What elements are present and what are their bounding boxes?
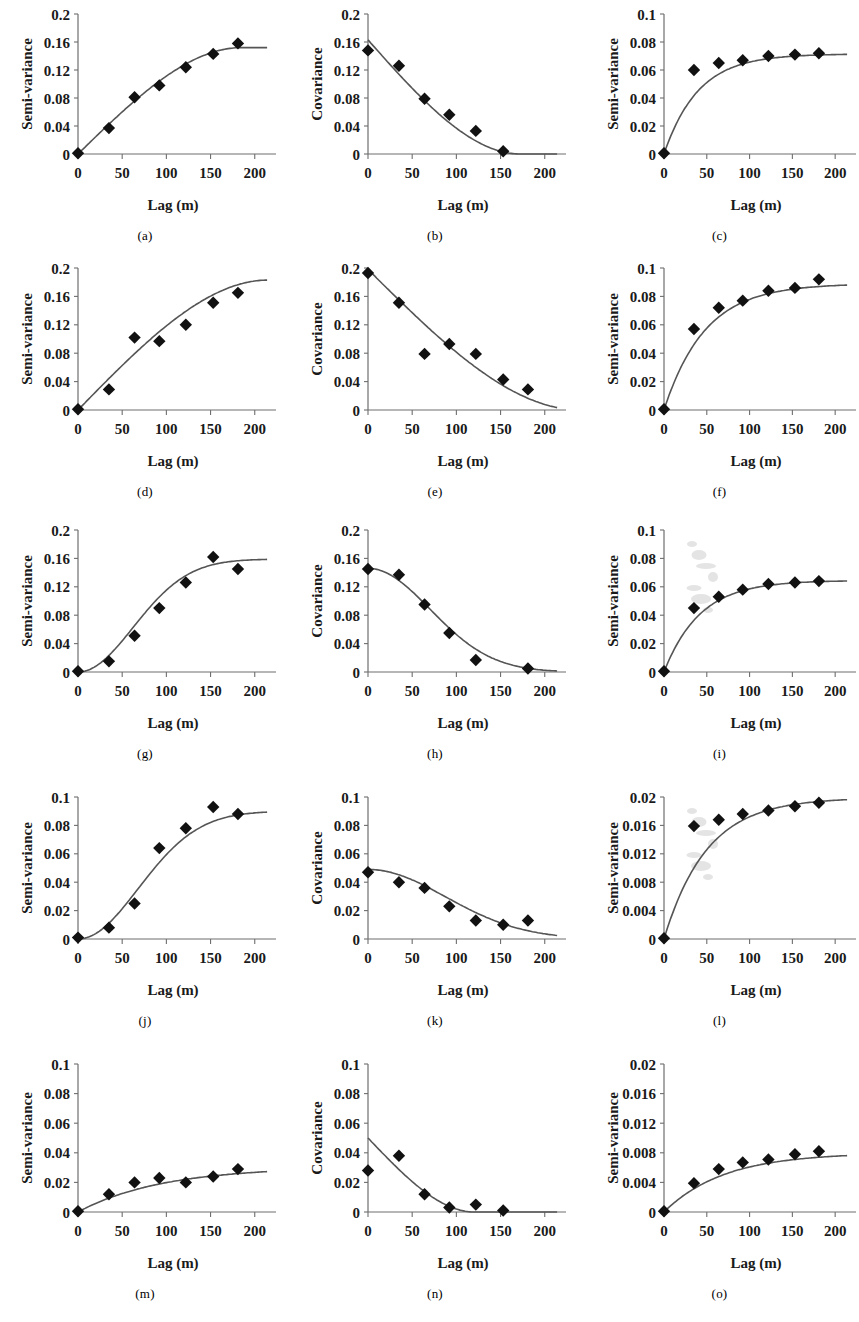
y-tick-label: 0.04 xyxy=(44,636,71,652)
plot-svg-h: 00.040.080.120.160.2050100150200Covarian… xyxy=(290,510,580,775)
y-tick-label: 0.06 xyxy=(334,846,361,862)
panel-caption-j: (j) xyxy=(0,1013,290,1029)
x-tick-label: 0 xyxy=(74,165,82,181)
plot-svg-d: 00.040.080.120.160.2050100150200Semi-var… xyxy=(0,250,290,510)
x-tick-label: 50 xyxy=(699,165,714,181)
x-tick-label: 200 xyxy=(824,165,847,181)
data-point-marker xyxy=(813,273,825,285)
x-tick-label: 150 xyxy=(199,165,222,181)
y-tick-label: 0 xyxy=(649,403,657,419)
data-point-marker xyxy=(207,801,219,813)
plot-svg-n: 00.020.040.060.080.1050100150200Covarian… xyxy=(290,1040,580,1322)
plot-svg-b: 00.040.080.120.160.2050100150200Covarian… xyxy=(290,0,580,250)
x-axis-title: Lag (m) xyxy=(437,982,488,999)
x-tick-label: 0 xyxy=(74,950,82,966)
y-tick-label: 0.02 xyxy=(44,1175,70,1191)
y-tick-label: 0.12 xyxy=(334,579,360,595)
data-point-marker xyxy=(128,1176,140,1188)
y-tick-label: 0.008 xyxy=(622,1145,656,1161)
y-tick-label: 0.04 xyxy=(44,119,71,135)
y-tick-label: 0.16 xyxy=(334,551,361,567)
data-point-marker xyxy=(418,1188,430,1200)
x-tick-label: 100 xyxy=(738,421,761,437)
data-point-marker xyxy=(362,267,374,279)
y-tick-label: 0.08 xyxy=(44,818,70,834)
x-tick-label: 0 xyxy=(74,683,82,699)
data-point-marker xyxy=(207,48,219,60)
data-point-marker xyxy=(207,1170,219,1182)
y-tick-label: 0.02 xyxy=(334,1175,360,1191)
x-tick-label: 50 xyxy=(115,683,130,699)
y-tick-label: 0.06 xyxy=(44,1116,71,1132)
scan-artifact xyxy=(687,808,719,880)
x-tick-label: 0 xyxy=(74,1223,82,1239)
y-tick-label: 0.012 xyxy=(622,846,656,862)
x-axis-title: Lag (m) xyxy=(437,1255,488,1272)
y-tick-label: 0 xyxy=(63,665,71,681)
x-tick-label: 0 xyxy=(364,683,372,699)
chart-panel-o: 00.0040.0080.0120.0160.02050100150200Sem… xyxy=(580,1040,859,1322)
y-tick-label: 0 xyxy=(63,403,71,419)
model-fit-curve xyxy=(368,568,557,671)
y-tick-label: 0.16 xyxy=(44,289,71,305)
data-point-marker xyxy=(232,287,244,299)
chart-panel-h: 00.040.080.120.160.2050100150200Covarian… xyxy=(290,510,580,775)
y-tick-label: 0 xyxy=(649,1205,657,1221)
data-point-marker xyxy=(470,914,482,926)
y-axis-title: Covariance xyxy=(309,831,325,905)
x-tick-label: 100 xyxy=(445,950,468,966)
panel-caption-f: (f) xyxy=(580,484,859,500)
y-axis-title: Semi-variance xyxy=(19,555,35,647)
y-tick-label: 0 xyxy=(649,147,657,163)
y-tick-label: 0.04 xyxy=(44,875,71,891)
data-point-marker xyxy=(180,61,192,73)
x-tick-label: 0 xyxy=(660,950,668,966)
y-tick-label: 0.1 xyxy=(637,7,656,23)
chart-panel-e: 00.040.080.120.160.2050100150200Covarian… xyxy=(290,250,580,510)
y-tick-label: 0.2 xyxy=(51,7,70,23)
x-tick-label: 50 xyxy=(405,950,420,966)
data-point-marker xyxy=(789,800,801,812)
x-tick-label: 200 xyxy=(824,1223,847,1239)
data-point-marker xyxy=(762,50,774,62)
data-point-marker xyxy=(103,655,115,667)
model-fit-curve xyxy=(664,285,847,410)
x-tick-label: 50 xyxy=(699,950,714,966)
x-tick-label: 100 xyxy=(445,421,468,437)
y-tick-label: 0.12 xyxy=(334,317,360,333)
y-axis-title: Semi-variance xyxy=(19,38,35,130)
data-point-marker xyxy=(153,79,165,91)
data-point-marker xyxy=(232,563,244,575)
data-point-marker xyxy=(497,919,509,931)
data-point-marker xyxy=(688,1177,700,1189)
x-axis-title: Lag (m) xyxy=(147,453,198,470)
x-tick-label: 200 xyxy=(243,950,266,966)
data-point-marker xyxy=(362,1164,374,1176)
chart-panel-i: 00.020.040.060.080.1050100150200Semi-var… xyxy=(580,510,859,775)
y-tick-label: 0.08 xyxy=(334,818,360,834)
y-tick-label: 0.02 xyxy=(334,903,360,919)
data-point-marker xyxy=(72,665,84,677)
x-tick-label: 200 xyxy=(824,421,847,437)
chart-panel-j: 00.020.040.060.080.1050100150200Semi-var… xyxy=(0,775,290,1040)
y-tick-label: 0 xyxy=(353,147,361,163)
y-tick-label: 0 xyxy=(649,665,657,681)
x-tick-label: 0 xyxy=(364,421,372,437)
y-tick-label: 0.016 xyxy=(622,1086,656,1102)
data-point-marker xyxy=(522,914,534,926)
x-tick-label: 0 xyxy=(364,950,372,966)
data-point-marker xyxy=(103,921,115,933)
y-tick-label: 0.16 xyxy=(334,35,361,51)
panel-caption-k: (k) xyxy=(290,1013,580,1029)
data-point-marker xyxy=(658,932,670,944)
x-tick-label: 50 xyxy=(115,1223,130,1239)
x-tick-label: 200 xyxy=(243,165,266,181)
data-point-marker xyxy=(658,403,670,415)
x-tick-label: 0 xyxy=(660,421,668,437)
x-tick-label: 150 xyxy=(489,1223,512,1239)
figure-panel-grid: 00.040.080.120.160.2050100150200Semi-var… xyxy=(0,0,859,1322)
data-point-marker xyxy=(789,48,801,60)
panel-caption-h: (h) xyxy=(290,746,580,762)
y-tick-label: 0.1 xyxy=(51,1057,70,1073)
x-tick-label: 150 xyxy=(489,421,512,437)
